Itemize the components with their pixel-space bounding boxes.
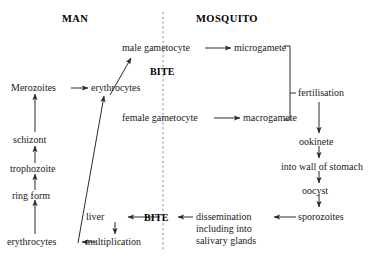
fertilisation-bracket (284, 46, 290, 120)
node-merozoites: Merozoites (11, 82, 56, 94)
node-dissemination-line3: salivary glands (196, 235, 256, 247)
node-schizont: schizont (13, 134, 46, 146)
section-title-mosquito: MOSQUITO (196, 13, 258, 24)
node-erythrocytes-upper: erythrocytes (91, 82, 140, 94)
node-multiplication: multiplication (85, 236, 141, 248)
node-liver: liver (86, 211, 104, 223)
malaria-lifecycle-diagram: MAN MOSQUITO BITE BITE Merozoites erythr… (0, 0, 391, 259)
node-male-gametocyte: male gametocyte (122, 42, 190, 54)
node-dissemination-line2: including into (196, 223, 252, 235)
node-into-wall-of-stomach: into wall of stomach (281, 161, 363, 173)
bite-label-lower: BITE (144, 212, 169, 223)
node-ookinete: ookinete (299, 136, 333, 148)
node-female-gametocyte: female gametocyte (122, 112, 198, 124)
node-trophozoite: trophozoite (10, 163, 56, 175)
node-dissemination-line1: dissemination (196, 211, 252, 223)
node-erythrocytes-lower: erythrocytes (7, 236, 56, 248)
node-ring-form: ring form (12, 190, 50, 202)
section-title-man: MAN (62, 13, 88, 24)
node-sporozoites: sporozoites (298, 211, 344, 223)
node-fertilisation: fertilisation (298, 87, 344, 99)
node-macrogamete: macrogamete (243, 112, 297, 124)
bite-label-upper: BITE (150, 66, 175, 77)
node-oocyst: oocyst (302, 185, 328, 197)
node-microgamete: microgamete (234, 42, 286, 54)
